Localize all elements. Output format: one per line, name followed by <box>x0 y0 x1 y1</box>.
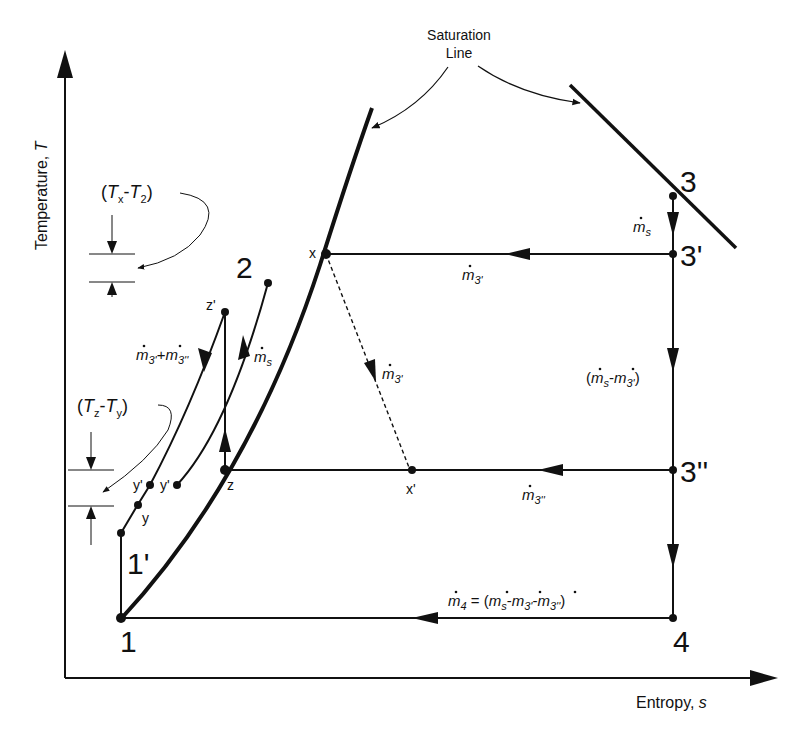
label-x: x <box>309 245 316 261</box>
arrow-3dprime-4-icon <box>667 544 679 568</box>
saturated-vapor-line <box>570 85 736 248</box>
dot-z <box>220 465 230 475</box>
y-axis-label: Temperature, T <box>33 140 50 250</box>
flow-ms-top: ms <box>633 218 652 238</box>
mdot-dots <box>143 217 643 594</box>
pinch-note-tz-ty: (Tz-Ty) <box>68 396 171 545</box>
arrow-3dprime-xprime-icon <box>538 464 563 476</box>
arrow-3prime-3dprime-icon <box>667 348 679 372</box>
dot-1 <box>116 613 126 623</box>
ts-diagram: Temperature, T Entropy, s Saturation Lin… <box>0 0 802 734</box>
label-1prime: 1' <box>127 547 149 580</box>
arrow-z-up-icon <box>219 428 231 452</box>
label-yprime-left: y' <box>133 477 143 493</box>
pinch-up-arrow-icon <box>107 282 117 295</box>
label-y: y <box>142 510 149 526</box>
state-point-labels: 1 1' 2 3 3' 3'' 4 x x' z z' y y' y' <box>120 165 708 658</box>
arrow-3prime-x-icon <box>505 248 530 260</box>
arrow-4-1-icon <box>412 612 438 624</box>
flow-m3prime-top: m3' <box>462 266 484 286</box>
label-z: z <box>227 477 234 493</box>
label-3: 3 <box>680 165 697 198</box>
pinch-note-tx-t2: (Tx-T2) <box>89 182 209 297</box>
dot-4 <box>669 614 677 622</box>
flow-ms-minus-m3prime: (ms-m3') <box>586 369 640 389</box>
label-xprime: x' <box>406 481 416 497</box>
dot-2 <box>264 279 272 287</box>
dot-yprime-left <box>146 481 154 489</box>
pinch-label-tx-t2: (Tx-T2) <box>101 182 153 205</box>
arrow-3-3prime-icon <box>667 212 679 236</box>
flow-m4-equation: m4 = (ms-m3'-m3'') <box>448 592 565 612</box>
pinch2-down-arrow-icon <box>86 457 96 470</box>
callout-arrow-right-icon <box>478 66 580 103</box>
label-4: 4 <box>673 625 690 658</box>
flow-m3p-plus-m3dp: m3'+m3'' <box>136 346 189 366</box>
dot-xprime <box>408 466 416 474</box>
pinch-callout-arrow-icon <box>138 193 209 268</box>
dot-3 <box>669 192 677 200</box>
process-lines <box>120 196 679 624</box>
saturation-label-line1: Saturation <box>427 27 491 43</box>
arrow-x-xprime-icon <box>364 359 376 382</box>
label-zprime: z' <box>206 297 216 313</box>
flow-ms-left: ms <box>254 348 273 368</box>
pinch-label-tz-ty: (Tz-Ty) <box>77 396 128 419</box>
dot-x <box>321 249 331 259</box>
dot-zprime <box>221 308 229 316</box>
dot-y <box>134 501 142 509</box>
label-3dprime: 3'' <box>680 455 708 488</box>
flow-m3prime-dashed: m3' <box>382 365 404 385</box>
flow-labels: ms m3' m3' (ms-m3') m3'' m4 = (ms-m3'-m3… <box>136 217 652 612</box>
dot-3prime <box>669 250 677 258</box>
saturated-liquid-line <box>120 108 372 620</box>
pinch-down-arrow-icon <box>107 241 117 254</box>
label-3prime: 3' <box>680 239 702 272</box>
state-point-dots <box>116 192 677 623</box>
label-2: 2 <box>236 251 253 284</box>
dot-1prime <box>117 529 125 537</box>
dot-yprime-right <box>173 481 181 489</box>
y-axis-arrow-icon <box>57 50 73 78</box>
pinch2-up-arrow-icon <box>86 506 96 519</box>
x-axis-label: Entropy, s <box>636 694 707 711</box>
label-1: 1 <box>120 625 137 658</box>
flow-m3dprime: m3'' <box>522 486 546 506</box>
saturation-label-line2: Line <box>446 45 473 61</box>
saturation-lines <box>120 85 736 620</box>
dot-3dprime <box>669 466 677 474</box>
label-yprime-right: y' <box>160 477 170 493</box>
x-axis-arrow-icon <box>750 670 778 686</box>
saturation-callout: Saturation Line <box>372 27 580 128</box>
axes: Temperature, T Entropy, s <box>33 50 778 711</box>
callout-arrow-left-icon <box>372 67 448 128</box>
